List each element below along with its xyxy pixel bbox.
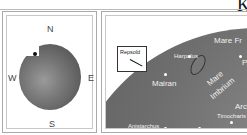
aristarchus-label: Anistarchus bbox=[128, 123, 159, 129]
location-dot-icon bbox=[33, 52, 37, 56]
timocharis-label: Timocharis bbox=[217, 113, 246, 119]
header-rule bbox=[0, 9, 247, 10]
repsold-pointer bbox=[130, 59, 143, 66]
mairan-label: Mairan bbox=[152, 79, 176, 88]
map-panel-inner: Repsold Mare Fr Harpalus Pla Mairan Mare… bbox=[105, 15, 247, 129]
mare-frigoris-label: Mare Fr bbox=[214, 36, 242, 45]
timocharis-crater-icon bbox=[230, 121, 233, 124]
aristarchus-crater-icon bbox=[164, 127, 167, 129]
mairan-crater-icon bbox=[164, 73, 167, 76]
lambert-crater-icon bbox=[198, 127, 201, 129]
harpalus-label: Harpalus bbox=[174, 53, 198, 59]
orientation-panel: N S W E bbox=[2, 11, 97, 133]
archimedes-label: Archi bbox=[235, 102, 247, 111]
map-panel: Repsold Mare Fr Harpalus Pla Mairan Mare… bbox=[101, 11, 247, 133]
west-label: W bbox=[8, 73, 17, 83]
north-label: N bbox=[47, 24, 54, 34]
repsold-label: Repsold bbox=[120, 49, 140, 55]
euler-label: Euler bbox=[172, 127, 186, 129]
south-label: S bbox=[49, 119, 55, 129]
harpalus-crater-icon bbox=[188, 55, 191, 58]
plato-label: Pla bbox=[242, 58, 247, 67]
east-label: E bbox=[88, 73, 94, 83]
repsold-inset-box: Repsold bbox=[117, 46, 147, 72]
